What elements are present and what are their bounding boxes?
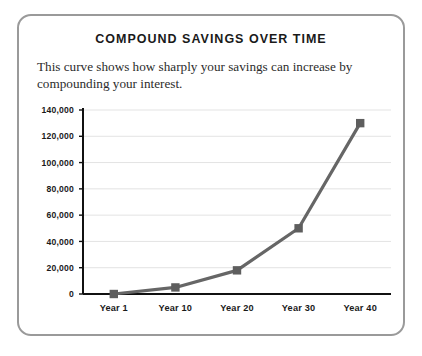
data-point-markers bbox=[110, 119, 365, 298]
y-axis-tick-label: 20,000 bbox=[47, 263, 75, 273]
y-axis-labels: 020,00040,00060,00080,000100,000120,0001… bbox=[42, 105, 74, 299]
x-axis-tick-label: Year 20 bbox=[220, 303, 254, 313]
data-point-marker bbox=[356, 119, 364, 127]
y-axis-tick-label: 140,000 bbox=[42, 105, 74, 115]
chart-subtitle: This curve shows how sharply your saving… bbox=[37, 58, 389, 92]
y-axis-tick-label: 100,000 bbox=[42, 158, 74, 168]
chart-title: Compound Savings Over Time bbox=[19, 32, 403, 46]
line-chart-svg: 020,00040,00060,00080,000100,000120,0001… bbox=[19, 98, 403, 330]
x-axis-labels: Year 1Year 10Year 20Year 30Year 40 bbox=[100, 303, 377, 313]
x-axis-tick-label: Year 10 bbox=[159, 303, 193, 313]
x-axis-tick-label: Year 1 bbox=[100, 303, 128, 313]
data-point-marker bbox=[294, 224, 302, 232]
chart-card: Compound Savings Over Time This curve sh… bbox=[17, 14, 405, 336]
data-point-marker bbox=[110, 290, 118, 298]
y-axis-tick-label: 0 bbox=[69, 289, 74, 299]
y-axis-tick-label: 120,000 bbox=[42, 131, 74, 141]
data-point-marker bbox=[233, 266, 241, 274]
x-axis-tick-label: Year 40 bbox=[343, 303, 377, 313]
plot-area: 020,00040,00060,00080,000100,000120,0001… bbox=[19, 98, 403, 330]
y-axis-tick-label: 40,000 bbox=[47, 237, 75, 247]
data-point-marker bbox=[171, 283, 179, 291]
gridlines bbox=[83, 110, 391, 268]
y-axis-tick-label: 80,000 bbox=[47, 184, 75, 194]
x-axis-tick-label: Year 30 bbox=[282, 303, 316, 313]
y-axis-tick-label: 60,000 bbox=[47, 210, 75, 220]
